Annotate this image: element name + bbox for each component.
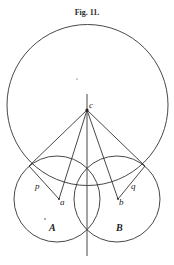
geometry-diagram: c a b p q A B — [0, 0, 174, 265]
label-b: b — [119, 197, 124, 207]
figure-title: Fig. 11. — [0, 8, 174, 17]
figure-11: Fig. 11. c a b p q A B — [0, 0, 174, 265]
label-c: c — [89, 100, 93, 110]
label-circle-a: A — [48, 222, 56, 233]
segment-p-to-a — [29, 166, 59, 199]
label-p: p — [34, 181, 40, 191]
label-q: q — [131, 181, 136, 191]
label-a: a — [60, 197, 65, 207]
stray-dot — [76, 78, 77, 79]
label-circle-b: B — [115, 222, 123, 233]
ray-c-to-q — [87, 110, 145, 166]
big-circle — [7, 25, 168, 186]
stray-dot-a — [44, 218, 45, 219]
